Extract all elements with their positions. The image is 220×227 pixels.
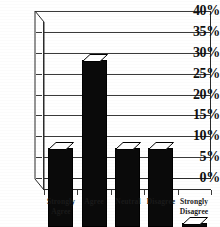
bars — [0, 0, 220, 227]
x-tick-mark — [44, 190, 45, 195]
x-tick-mark — [144, 190, 145, 195]
bar-face — [115, 148, 140, 227]
x-tick-mark — [111, 190, 112, 195]
bar-top-face — [148, 142, 173, 149]
bar-top-face — [82, 54, 107, 61]
x-tick-mark — [178, 190, 179, 195]
x-tick-label: StronglyDisagree — [171, 197, 217, 217]
bar-top-face — [182, 217, 207, 224]
x-tick-mark — [211, 190, 212, 195]
bar-top-face — [48, 142, 73, 149]
bar-top-face — [115, 142, 140, 149]
x-tick-mark — [77, 190, 78, 195]
bar-chart: 0%5%10%15%20%25%30%35%40% StronglyAgreeA… — [0, 0, 220, 227]
bar-face — [148, 148, 173, 227]
